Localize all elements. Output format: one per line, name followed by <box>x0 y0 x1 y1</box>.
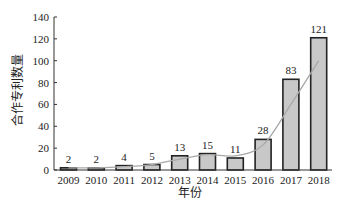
data-label: 28 <box>258 124 270 136</box>
trend-line <box>69 61 319 168</box>
bar-2014 <box>200 154 216 170</box>
x-ticks-group: 2009201020112012201320142015201620172018 <box>58 174 331 186</box>
x-tick-label: 2009 <box>58 174 81 186</box>
y-tick-label: 0 <box>44 164 50 176</box>
x-tick-label: 2015 <box>224 174 247 186</box>
data-label: 2 <box>94 153 100 165</box>
data-label: 15 <box>202 139 214 151</box>
data-label: 121 <box>310 23 327 35</box>
y-tick-label: 20 <box>38 142 50 154</box>
bar-2015 <box>227 158 243 170</box>
data-label: 2 <box>66 153 72 165</box>
x-tick-label: 2017 <box>280 174 303 186</box>
y-ticks-group: 020406080100120140 <box>33 11 58 176</box>
data-label: 13 <box>174 141 186 153</box>
y-tick-label: 80 <box>38 77 50 89</box>
data-label: 4 <box>121 151 127 163</box>
bar-chart: 22451315112883121 020406080100120140 200… <box>0 0 344 214</box>
x-axis-title: 年份 <box>178 186 202 200</box>
x-tick-label: 2016 <box>252 174 275 186</box>
x-tick-label: 2012 <box>141 174 163 186</box>
x-tick-label: 2010 <box>85 174 108 186</box>
y-tick-label: 60 <box>38 98 50 110</box>
x-tick-label: 2011 <box>113 174 135 186</box>
y-tick-label: 120 <box>33 33 50 45</box>
x-tick-label: 2014 <box>197 174 220 186</box>
x-tick-label: 2013 <box>169 174 192 186</box>
data-label: 83 <box>285 64 297 76</box>
y-axis-title: 合作专利数量 <box>10 54 25 126</box>
x-tick-label: 2018 <box>308 174 331 186</box>
y-tick-label: 100 <box>33 55 50 67</box>
bar-2018 <box>311 38 327 170</box>
bars-group <box>61 38 327 170</box>
y-tick-label: 140 <box>33 11 50 23</box>
data-label: 5 <box>149 150 155 162</box>
data-label: 11 <box>230 143 241 155</box>
y-tick-label: 40 <box>38 120 50 132</box>
bar-2017 <box>283 79 299 170</box>
